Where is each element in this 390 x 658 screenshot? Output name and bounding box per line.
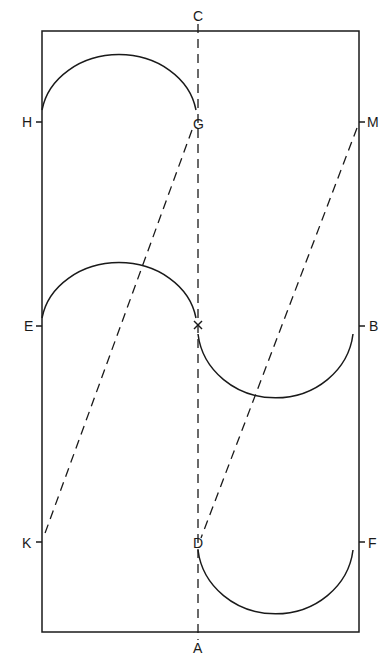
geometry-figure xyxy=(0,0,390,658)
arc-top-left xyxy=(42,55,196,110)
label-D: D xyxy=(193,536,203,550)
dashed-line-M-D xyxy=(201,128,357,538)
label-H: H xyxy=(22,115,32,129)
label-K: K xyxy=(22,536,31,550)
label-C: C xyxy=(193,9,203,23)
diagram: C A H G M E B K D F xyxy=(0,0,390,658)
label-G: G xyxy=(193,117,204,131)
label-B: B xyxy=(369,319,378,333)
arc-middle-left xyxy=(42,263,196,318)
arc-bottom-right xyxy=(198,550,353,614)
label-M: M xyxy=(367,115,379,129)
label-E: E xyxy=(24,319,33,333)
label-A: A xyxy=(193,641,202,655)
label-F: F xyxy=(368,536,377,550)
dashed-line-G-K xyxy=(44,130,192,536)
